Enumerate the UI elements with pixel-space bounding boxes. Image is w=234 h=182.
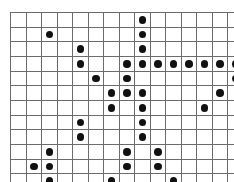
- dot-cell-filled[interactable]: [150, 56, 166, 71]
- dot-cell-empty[interactable]: [57, 159, 73, 174]
- dot-cell-empty[interactable]: [212, 13, 228, 28]
- dot-cell-empty[interactable]: [88, 13, 104, 28]
- dot-cell-empty[interactable]: [11, 130, 27, 145]
- dot-cell-empty[interactable]: [11, 56, 27, 71]
- dot-cell-empty[interactable]: [197, 174, 213, 182]
- dot-cell-empty[interactable]: [212, 144, 228, 159]
- dot-cell-empty[interactable]: [11, 100, 27, 115]
- dot-cell-filled[interactable]: [104, 174, 120, 182]
- dot-cell-empty[interactable]: [212, 174, 228, 182]
- dot-cell-filled[interactable]: [104, 86, 120, 101]
- dot-cell-empty[interactable]: [181, 86, 197, 101]
- dot-cell-empty[interactable]: [181, 100, 197, 115]
- dot-cell-empty[interactable]: [73, 27, 89, 42]
- dot-cell-empty[interactable]: [42, 115, 58, 130]
- dot-cell-empty[interactable]: [150, 42, 166, 57]
- dot-cell-empty[interactable]: [150, 27, 166, 42]
- dot-cell-empty[interactable]: [73, 174, 89, 182]
- dot-cell-empty[interactable]: [197, 115, 213, 130]
- dot-cell-empty[interactable]: [104, 56, 120, 71]
- dot-cell-empty[interactable]: [73, 100, 89, 115]
- dot-cell-empty[interactable]: [73, 13, 89, 28]
- dot-cell-empty[interactable]: [181, 159, 197, 174]
- dot-cell-empty[interactable]: [166, 42, 182, 57]
- dot-cell-empty[interactable]: [150, 174, 166, 182]
- dot-cell-empty[interactable]: [11, 144, 27, 159]
- dot-cell-filled[interactable]: [228, 71, 234, 86]
- dot-cell-empty[interactable]: [197, 130, 213, 145]
- dot-cell-empty[interactable]: [42, 42, 58, 57]
- dot-cell-empty[interactable]: [88, 130, 104, 145]
- dot-cell-empty[interactable]: [228, 174, 234, 182]
- dot-cell-empty[interactable]: [73, 71, 89, 86]
- dot-cell-empty[interactable]: [104, 130, 120, 145]
- dot-cell-filled[interactable]: [197, 100, 213, 115]
- dot-cell-empty[interactable]: [181, 115, 197, 130]
- dot-cell-empty[interactable]: [11, 27, 27, 42]
- dot-cell-empty[interactable]: [26, 144, 42, 159]
- dot-cell-empty[interactable]: [166, 130, 182, 145]
- dot-cell-empty[interactable]: [119, 115, 135, 130]
- dot-cell-empty[interactable]: [166, 100, 182, 115]
- dot-cell-empty[interactable]: [228, 42, 234, 57]
- dot-cell-empty[interactable]: [104, 144, 120, 159]
- dot-cell-empty[interactable]: [104, 42, 120, 57]
- dot-cell-filled[interactable]: [73, 130, 89, 145]
- dot-cell-empty[interactable]: [26, 56, 42, 71]
- dot-cell-empty[interactable]: [57, 100, 73, 115]
- dot-cell-empty[interactable]: [166, 27, 182, 42]
- dot-cell-empty[interactable]: [88, 115, 104, 130]
- dot-cell-empty[interactable]: [73, 159, 89, 174]
- dot-cell-empty[interactable]: [88, 144, 104, 159]
- dot-cell-empty[interactable]: [150, 71, 166, 86]
- dot-cell-empty[interactable]: [104, 27, 120, 42]
- dot-cell-filled[interactable]: [73, 56, 89, 71]
- dot-cell-empty[interactable]: [26, 86, 42, 101]
- dot-cell-filled[interactable]: [135, 42, 151, 57]
- dot-cell-empty[interactable]: [135, 159, 151, 174]
- dot-cell-empty[interactable]: [26, 130, 42, 145]
- dot-cell-filled[interactable]: [166, 174, 182, 182]
- dot-cell-filled[interactable]: [135, 27, 151, 42]
- dot-cell-filled[interactable]: [228, 56, 234, 71]
- dot-cell-empty[interactable]: [119, 42, 135, 57]
- dot-cell-filled[interactable]: [119, 71, 135, 86]
- dot-cell-empty[interactable]: [150, 130, 166, 145]
- dot-cell-empty[interactable]: [88, 174, 104, 182]
- dot-cell-empty[interactable]: [150, 115, 166, 130]
- dot-cell-empty[interactable]: [166, 71, 182, 86]
- dot-cell-filled[interactable]: [197, 56, 213, 71]
- dot-cell-empty[interactable]: [212, 71, 228, 86]
- dot-cell-empty[interactable]: [88, 42, 104, 57]
- dot-cell-empty[interactable]: [119, 100, 135, 115]
- dot-cell-empty[interactable]: [135, 174, 151, 182]
- dot-cell-filled[interactable]: [73, 42, 89, 57]
- dot-cell-empty[interactable]: [212, 130, 228, 145]
- dot-cell-empty[interactable]: [88, 86, 104, 101]
- dot-cell-empty[interactable]: [11, 86, 27, 101]
- dot-cell-empty[interactable]: [57, 27, 73, 42]
- dot-cell-empty[interactable]: [228, 115, 234, 130]
- dot-cell-empty[interactable]: [11, 13, 27, 28]
- dot-cell-empty[interactable]: [104, 159, 120, 174]
- dot-cell-empty[interactable]: [57, 42, 73, 57]
- dot-cell-empty[interactable]: [88, 56, 104, 71]
- dot-cell-empty[interactable]: [42, 13, 58, 28]
- dot-cell-empty[interactable]: [150, 100, 166, 115]
- dot-cell-empty[interactable]: [73, 86, 89, 101]
- dot-cell-filled[interactable]: [42, 27, 58, 42]
- dot-cell-empty[interactable]: [228, 27, 234, 42]
- dot-cell-empty[interactable]: [119, 174, 135, 182]
- dot-cell-empty[interactable]: [228, 159, 234, 174]
- dot-cell-filled[interactable]: [135, 115, 151, 130]
- dot-cell-empty[interactable]: [181, 27, 197, 42]
- dot-cell-empty[interactable]: [88, 159, 104, 174]
- dot-cell-filled[interactable]: [212, 86, 228, 101]
- dot-cell-empty[interactable]: [119, 130, 135, 145]
- dot-cell-empty[interactable]: [166, 13, 182, 28]
- dot-cell-empty[interactable]: [181, 144, 197, 159]
- dot-cell-empty[interactable]: [181, 42, 197, 57]
- dot-cell-empty[interactable]: [119, 27, 135, 42]
- dot-cell-empty[interactable]: [181, 174, 197, 182]
- dot-cell-empty[interactable]: [181, 130, 197, 145]
